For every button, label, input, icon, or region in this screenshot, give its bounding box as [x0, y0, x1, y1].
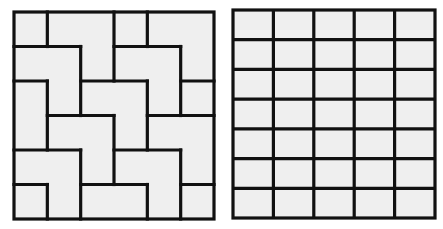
regular-grid [233, 10, 435, 218]
tiled-puzzle-grid [12, 10, 215, 220]
diagram-canvas [0, 0, 443, 229]
